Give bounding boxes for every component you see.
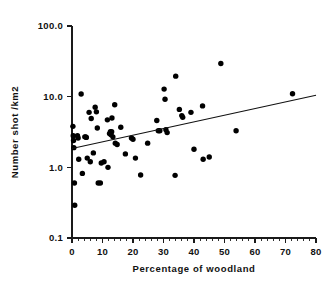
y-tick-label: 1.0 — [49, 162, 63, 173]
data-point — [123, 151, 128, 156]
data-point — [145, 140, 150, 145]
x-tick-label: 0 — [69, 246, 75, 257]
data-point — [173, 73, 178, 78]
data-point — [101, 159, 106, 164]
data-point — [164, 130, 169, 135]
data-point — [154, 118, 159, 123]
data-point — [89, 116, 94, 121]
y-axis-tick-labels: 0.11.010.0100.0 — [38, 20, 64, 243]
data-point — [105, 165, 110, 170]
data-point — [112, 102, 117, 107]
data-point — [72, 203, 77, 208]
data-point — [191, 147, 196, 152]
x-tick-label: 10 — [97, 246, 108, 257]
x-tick-label: 60 — [249, 246, 260, 257]
data-point — [92, 104, 97, 109]
scatter-plot: 0.11.010.0100.0 01020304050607080 Percen… — [0, 0, 336, 285]
data-point — [161, 86, 166, 91]
data-point — [290, 91, 295, 96]
data-point — [72, 180, 77, 185]
data-points-group — [70, 61, 295, 208]
data-point — [88, 159, 93, 164]
y-axis-ticks — [67, 26, 72, 238]
data-point — [114, 142, 119, 147]
data-point — [86, 110, 91, 115]
data-point — [180, 115, 185, 120]
y-tick-label: 0.1 — [49, 232, 64, 243]
data-point — [109, 115, 114, 120]
data-point — [233, 128, 238, 133]
data-point — [162, 97, 167, 102]
data-point — [207, 154, 212, 159]
data-point — [75, 135, 80, 140]
data-point — [84, 135, 89, 140]
y-tick-label: 10.0 — [43, 91, 63, 102]
data-point — [188, 110, 193, 115]
data-point — [200, 157, 205, 162]
data-point — [76, 157, 81, 162]
data-point — [138, 172, 143, 177]
data-point — [94, 109, 99, 114]
y-tick-label: 100.0 — [38, 20, 63, 31]
data-point — [95, 125, 100, 130]
data-point — [130, 137, 135, 142]
x-axis-title: Percentage of woodland — [133, 263, 256, 274]
data-point — [177, 107, 182, 112]
data-point — [133, 155, 138, 160]
data-point — [80, 171, 85, 176]
x-axis-tick-labels: 01020304050607080 — [69, 246, 321, 257]
data-point — [118, 124, 123, 129]
x-tick-label: 80 — [310, 246, 321, 257]
chart-figure: 0.11.010.0100.0 01020304050607080 Percen… — [0, 0, 336, 285]
data-point — [172, 173, 177, 178]
data-point — [98, 180, 103, 185]
data-point — [109, 129, 114, 134]
x-tick-label: 70 — [280, 246, 291, 257]
x-tick-label: 30 — [158, 246, 169, 257]
data-point — [91, 150, 96, 155]
x-tick-label: 40 — [188, 246, 199, 257]
data-point — [71, 138, 76, 143]
data-point — [78, 91, 83, 96]
data-point — [70, 124, 75, 129]
x-tick-label: 50 — [219, 246, 230, 257]
data-point — [218, 61, 223, 66]
data-point — [200, 103, 205, 108]
y-axis-title: Number shot /km2 — [9, 86, 20, 178]
x-tick-label: 20 — [127, 246, 138, 257]
